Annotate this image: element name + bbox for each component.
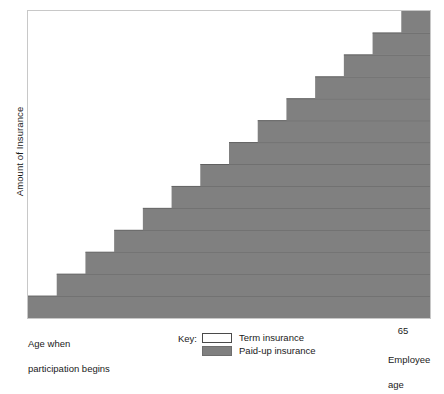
x-axis-title: Employee age bbox=[388, 341, 430, 394]
plot-area bbox=[27, 10, 431, 319]
legend: Key: Term insurance Paid-up insurance bbox=[178, 332, 316, 357]
legend-swatch-paid-up-icon bbox=[202, 346, 232, 356]
legend-rows: Term insurance Paid-up insurance bbox=[202, 332, 316, 357]
paid-up-band bbox=[57, 274, 430, 296]
paid-up-band bbox=[200, 165, 430, 187]
paid-up-band bbox=[172, 186, 430, 208]
paid-up-band bbox=[114, 230, 430, 252]
paid-up-band bbox=[344, 55, 430, 77]
y-axis-title: Amount of Insurance bbox=[14, 62, 25, 242]
paid-up-band bbox=[286, 99, 430, 121]
x-axis-start-line2: participation begins bbox=[28, 363, 110, 376]
paid-up-band bbox=[258, 121, 430, 143]
paid-up-insurance-bands bbox=[28, 11, 430, 318]
step-chart-svg bbox=[28, 11, 430, 318]
paid-up-band bbox=[373, 33, 430, 55]
paid-up-band bbox=[401, 11, 430, 33]
legend-item-paid-up: Paid-up insurance bbox=[202, 345, 316, 358]
paid-up-band bbox=[28, 296, 430, 318]
x-axis-title-line1: Employee bbox=[388, 354, 430, 367]
legend-label-paid-up: Paid-up insurance bbox=[239, 345, 316, 358]
paid-up-band bbox=[85, 252, 430, 274]
x-axis-end-value: 65 bbox=[388, 325, 418, 338]
legend-title: Key: bbox=[178, 332, 197, 346]
x-axis-start-line1: Age when bbox=[28, 338, 110, 351]
paid-up-band bbox=[143, 208, 430, 230]
x-axis-start-label: Age when participation begins bbox=[28, 325, 110, 388]
x-axis-title-line2: age bbox=[388, 379, 430, 392]
legend-label-term: Term insurance bbox=[239, 332, 304, 345]
paid-up-band bbox=[315, 77, 430, 99]
legend-swatch-term-icon bbox=[202, 333, 232, 343]
legend-item-term: Term insurance bbox=[202, 332, 316, 345]
paid-up-band bbox=[229, 143, 430, 165]
